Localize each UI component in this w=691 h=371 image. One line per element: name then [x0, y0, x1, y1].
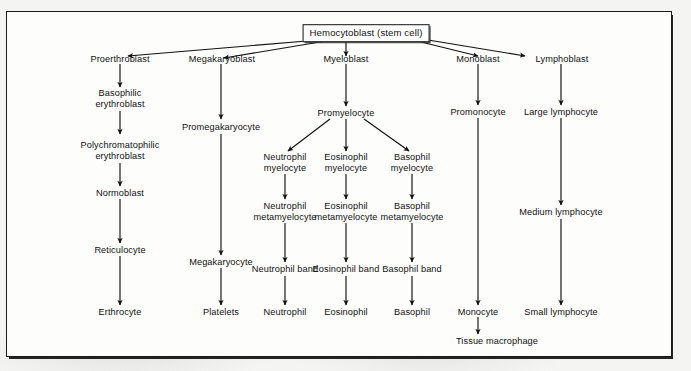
node-basophil-band[interactable]: Basophil band	[382, 264, 442, 275]
figure-page: Hemocytoblast (stem cell) Proerthroblast…	[0, 0, 691, 371]
node-promyelocyte[interactable]: Promyelocyte	[318, 108, 375, 119]
node-monocyte[interactable]: Monocyte	[458, 307, 499, 318]
node-reticulocyte[interactable]: Reticulocyte	[94, 245, 145, 256]
node-neutrophil[interactable]: Neutrophil	[264, 307, 307, 318]
node-medium-lymphocyte[interactable]: Medium lymphocyte	[519, 207, 602, 218]
node-erythrocyte[interactable]: Erthrocyte	[99, 307, 142, 318]
node-eosinophil-band[interactable]: Eosinophil band	[313, 264, 380, 275]
node-myeloblast[interactable]: Myeloblast	[324, 54, 369, 65]
node-eosinophil-myelocyte[interactable]: Eosinophil myelocyte	[324, 152, 367, 173]
node-megakaryocyte[interactable]: Megakaryocyte	[189, 257, 253, 268]
node-large-lymphocyte[interactable]: Large lymphocyte	[524, 107, 598, 118]
node-normoblast[interactable]: Normoblast	[96, 188, 144, 199]
node-promegakaryocyte[interactable]: Promegakaryocyte	[182, 122, 260, 133]
node-monoblast[interactable]: Monoblast	[456, 54, 499, 65]
node-small-lymphocyte[interactable]: Small lymphocyte	[524, 307, 598, 318]
node-basophil-myelocyte[interactable]: Basophil myelocyte	[391, 152, 433, 173]
node-polychromatophilic-erythroblast[interactable]: Polychromatophilic erythroblast	[81, 140, 160, 161]
node-lymphoblast[interactable]: Lymphoblast	[536, 54, 589, 65]
node-platelets[interactable]: Platelets	[203, 307, 239, 318]
node-neutrophil-myelocyte[interactable]: Neutrophil myelocyte	[264, 152, 307, 173]
node-promonocyte[interactable]: Promonocyte	[450, 107, 505, 118]
node-neutrophil-metamyelocyte[interactable]: Neutrophil metamyelocyte	[253, 201, 316, 222]
node-basophilic-erythroblast[interactable]: Basophilic erythroblast	[95, 88, 144, 109]
node-proerythroblast[interactable]: Proerthroblast	[90, 54, 149, 65]
node-eosinophil-metamyelocyte[interactable]: Eosinophil metamyelocyte	[314, 201, 377, 222]
node-tissue-macrophage[interactable]: Tissue macrophage	[456, 336, 538, 347]
node-basophil[interactable]: Basophil	[394, 307, 430, 318]
node-basophil-metamyelocyte[interactable]: Basophil metamyelocyte	[380, 201, 443, 222]
node-eosinophil[interactable]: Eosinophil	[324, 307, 367, 318]
node-hemocytoblast[interactable]: Hemocytoblast (stem cell)	[303, 24, 430, 42]
node-neutrophil-band[interactable]: Neutrophil band	[252, 264, 318, 275]
node-megakaryoblast[interactable]: Megakaryoblast	[189, 54, 255, 65]
